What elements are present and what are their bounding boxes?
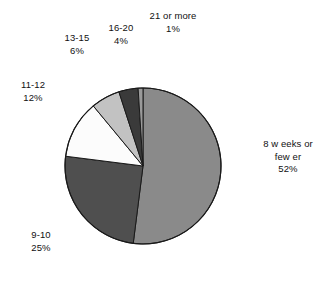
- pie-label-8-weeks-or-fewer: 8 w eeks or few er 52%: [249, 138, 327, 176]
- pie-label-value: 12%: [6, 92, 60, 105]
- pie-label-9-10: 9-10 25%: [14, 229, 68, 254]
- pie-label-name: 9-10: [14, 229, 68, 242]
- pie-label-value: 1%: [131, 23, 215, 36]
- pie-label-name: 11-12: [6, 79, 60, 92]
- pie-label-name: 21 or more: [131, 10, 215, 23]
- pie-label-name-line2: few er: [249, 151, 327, 164]
- pie-label-value: 52%: [249, 163, 327, 176]
- pie-slice: [65, 156, 143, 243]
- pie-slice-group: [65, 88, 221, 244]
- pie-slice: [133, 88, 221, 244]
- pie-chart-figure: 8 w eeks or few er 52% 9-10 25% 11-12 12…: [0, 0, 327, 282]
- pie-label-value: 4%: [94, 35, 148, 48]
- pie-label-21-or-more: 21 or more 1%: [131, 10, 215, 35]
- pie-label-11-12: 11-12 12%: [6, 79, 60, 104]
- pie-label-name: 8 w eeks or: [249, 138, 327, 151]
- pie-label-value: 25%: [14, 242, 68, 255]
